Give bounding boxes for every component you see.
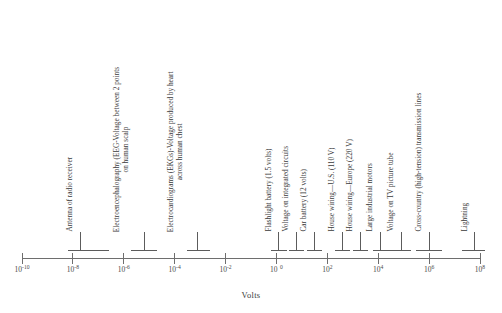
axis-tick [72,253,73,264]
axis-tick-label: 102 [322,266,332,274]
axis-tick [378,253,379,264]
axis-tick [429,253,430,264]
axis-tick [327,253,328,264]
axis-tick-label: 10-2 [219,266,231,274]
item-label: Voltage on integrated circuits [283,146,292,232]
axis-tick-label: 104 [373,266,383,274]
axis-tick-label: 106 [424,266,434,274]
axis-line [22,258,480,259]
axis-tick [225,253,226,264]
axis-title: Volts [0,290,502,300]
item-label: House wiring—Europe (220 V) [346,140,355,232]
axis-tick-label: 10-10 [15,266,30,274]
axis-tick-label: 100 [270,266,283,274]
range-marker [0,232,502,251]
axis-tick-label: 10-8 [67,266,79,274]
item-label: Electrocardiograms (EKGs)-Voltage produc… [166,71,183,232]
item-label: Large industrial motors [367,164,376,232]
item-label: Electroencephalography (EEG-Voltage betw… [113,67,130,232]
axis-tick-label: 108 [475,266,485,274]
item-label: Car battery (12 volts) [301,169,310,232]
axis-tick-label: 10-6 [118,266,130,274]
axis-tick [276,253,277,264]
axis-tick-label: 10-4 [169,266,181,274]
axis-tick [22,253,23,264]
range-marker-bar [462,250,485,251]
axis-tick [480,253,481,264]
item-label: Cross-country (high-tension) transmissio… [415,93,424,232]
voltage-scale-figure: 10-1010-810-610-410-2100102104106108 Ant… [0,0,502,313]
item-label: Lightning [461,203,470,232]
item-label: Antenna of radio receiver [67,157,76,232]
range-marker-stem [474,232,475,251]
item-label: Voltage on TV picture tube [387,153,396,232]
axis-tick [123,253,124,264]
axis-tick [174,253,175,264]
item-label: Flashlight battery (1.5 volts) [265,149,274,232]
item-label: House wiring—U.S. (110 V) [329,148,338,232]
